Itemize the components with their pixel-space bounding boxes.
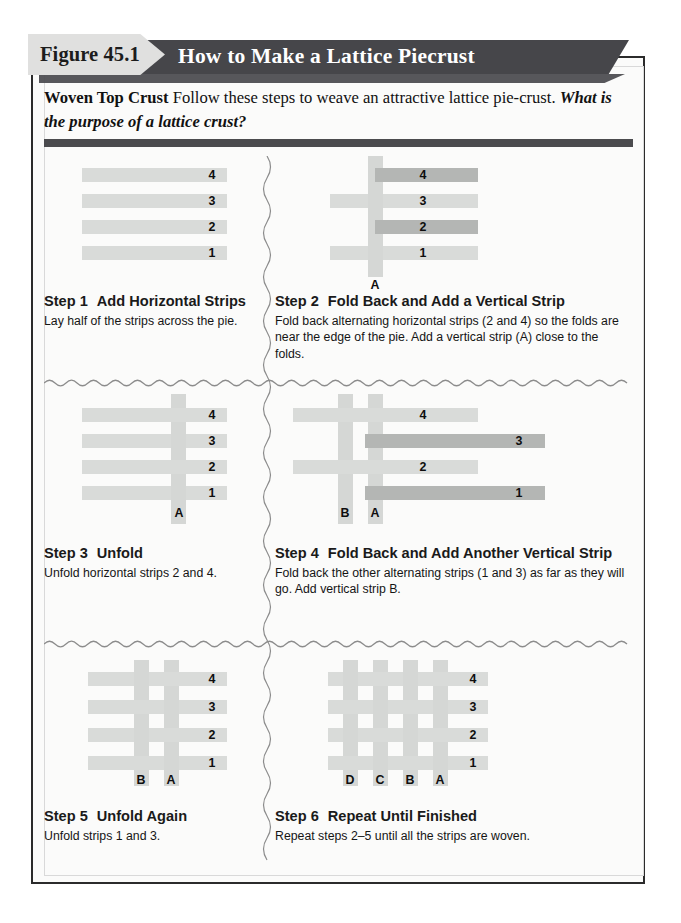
step-2-illustration: 4 3 2 1 A	[275, 160, 575, 285]
step-1-cell: 4 3 2 1 Step 1Add Horizontal Strips Lay …	[44, 160, 256, 360]
vertical-strip-label-B: B	[133, 773, 149, 787]
strip-label-3: 3	[511, 434, 527, 448]
step-5-title: Step 5Unfold Again	[44, 808, 187, 824]
step-4-number: Step 4	[275, 545, 319, 561]
strip-label-4: 4	[204, 672, 220, 686]
weave-over-2-A	[161, 728, 182, 742]
step-1-illustration: 4 3 2 1	[44, 160, 256, 275]
step-2-cell: 4 3 2 1 A Step 2Fold Back and Add a Vert…	[275, 160, 635, 370]
strip-label-4: 4	[415, 408, 431, 422]
vertical-strip-label-A: A	[367, 506, 383, 520]
vertical-strip-label-B: B	[402, 773, 418, 787]
figure-number-tab: Figure 45.1	[28, 34, 165, 75]
step-3-cell: 4 3 2 1 A Step 3Unfold Unfold horizontal…	[44, 400, 256, 615]
strip-label-4: 4	[204, 168, 220, 182]
step-2-title: Step 2Fold Back and Add a Vertical Strip	[275, 293, 565, 309]
step-1-title: Step 1Add Horizontal Strips	[44, 293, 246, 309]
figure-title: How to Make a Lattice Piecrust	[178, 44, 475, 69]
intro-text: Follow these steps to weave an attractiv…	[169, 88, 560, 107]
strip-label-4: 4	[415, 168, 431, 182]
strip-label-2: 2	[204, 460, 220, 474]
weave-over-2-C	[370, 728, 391, 742]
step-3-illustration: 4 3 2 1 A	[44, 400, 256, 540]
step-3-heading: Unfold	[97, 545, 143, 561]
weave-over-4-A	[430, 672, 451, 686]
step-2-heading: Fold Back and Add a Vertical Strip	[328, 293, 565, 309]
figure-page: How to Make a Lattice Piecrust Figure 45…	[0, 0, 681, 923]
intro-rule	[44, 139, 633, 147]
vertical-strip-label-A: A	[367, 278, 383, 292]
strip-label-1: 1	[204, 246, 220, 260]
strip-label-2: 2	[465, 728, 481, 742]
step-5-number: Step 5	[44, 808, 88, 824]
strip-label-3: 3	[465, 700, 481, 714]
figure-number-label: Figure 45.1	[28, 43, 140, 66]
step-4-body: Fold back the other alternating strips (…	[275, 565, 627, 598]
step-5-body: Unfold strips 1 and 3.	[44, 828, 254, 844]
weave-over-4-A	[161, 672, 182, 686]
step-6-heading: Repeat Until Finished	[328, 808, 477, 824]
strip-label-1: 1	[204, 756, 220, 770]
strip-label-2: 2	[415, 220, 431, 234]
strip-label-2: 2	[204, 220, 220, 234]
step-6-number: Step 6	[275, 808, 319, 824]
step-2-number: Step 2	[275, 293, 319, 309]
vertical-strip-label-A: A	[171, 506, 187, 520]
step-5-heading: Unfold Again	[97, 808, 187, 824]
step-6-body: Repeat steps 2–5 until all the strips ar…	[275, 828, 627, 844]
step-5-illustration: 4 3 2 1 B A	[44, 660, 256, 810]
step-1-body: Lay half of the strips across the pie.	[44, 313, 254, 329]
weave-over-3-B	[131, 700, 152, 714]
step-6-cell: 4 3 2 1 D C B A Step 6Repeat Until Finis…	[275, 660, 635, 860]
intro-paragraph: Woven Top Crust Follow these steps to we…	[44, 86, 624, 133]
strip-label-4: 4	[465, 672, 481, 686]
strip-label-1: 1	[511, 486, 527, 500]
strip-label-3: 3	[415, 194, 431, 208]
intro-lead: Woven Top Crust	[44, 88, 169, 107]
weave-over-1-D	[340, 756, 361, 770]
step-6-illustration: 4 3 2 1 D C B A	[275, 660, 575, 810]
strip-label-3: 3	[204, 194, 220, 208]
step-1-number: Step 1	[44, 293, 88, 309]
step-3-body: Unfold horizontal strips 2 and 4.	[44, 565, 254, 581]
strip-label-2: 2	[204, 728, 220, 742]
vertical-strip-label-B: B	[337, 506, 353, 520]
step-2-body: Fold back alternating horizontal strips …	[275, 313, 627, 362]
weave-over-1-B	[131, 756, 152, 770]
step-1-heading: Add Horizontal Strips	[97, 293, 246, 309]
step-4-heading: Fold Back and Add Another Vertical Strip	[328, 545, 612, 561]
vertical-wavy-divider	[258, 156, 276, 862]
strip-label-3: 3	[204, 434, 220, 448]
weave-over-2-A	[430, 728, 451, 742]
vertical-strip-label-A: A	[163, 773, 179, 787]
vertical-strip-label-C: C	[372, 773, 388, 787]
step-4-illustration: 4 3 2 1 B A	[275, 400, 585, 540]
weave-over-3-D	[340, 700, 361, 714]
strip-label-4: 4	[204, 408, 220, 422]
strip-label-1: 1	[465, 756, 481, 770]
step-4-title: Step 4Fold Back and Add Another Vertical…	[275, 545, 612, 561]
vertical-strip-label-D: D	[342, 773, 358, 787]
weave-over-1-B	[400, 756, 421, 770]
strip-label-3: 3	[204, 700, 220, 714]
horizontal-wavy-divider-1	[44, 378, 634, 388]
strip-label-2: 2	[415, 460, 431, 474]
step-4-cell: 4 3 2 1 B A Step 4Fold Back and Add Anot…	[275, 400, 635, 615]
horizontal-strip-2	[293, 460, 478, 474]
step-3-number: Step 3	[44, 545, 88, 561]
horizontal-strip-4	[293, 408, 478, 422]
banner-shadow	[39, 74, 625, 83]
horizontal-strip-3	[330, 194, 478, 208]
horizontal-strip-1	[330, 246, 478, 260]
strip-label-1: 1	[415, 246, 431, 260]
strip-label-1: 1	[204, 486, 220, 500]
vertical-strip-label-A: A	[432, 773, 448, 787]
step-6-title: Step 6Repeat Until Finished	[275, 808, 477, 824]
horizontal-wavy-divider-2	[44, 639, 634, 649]
step-3-title: Step 3Unfold	[44, 545, 143, 561]
weave-over-3-B	[400, 700, 421, 714]
step-5-cell: 4 3 2 1 B A Step 5Unfold Again Unfold st…	[44, 660, 256, 860]
weave-over-4-C	[370, 672, 391, 686]
